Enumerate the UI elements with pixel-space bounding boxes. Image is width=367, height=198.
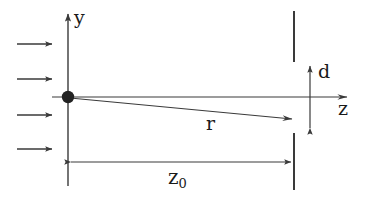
origin-scatterer-dot (62, 91, 74, 103)
ray-line (70, 98, 292, 119)
z-axis-label: z (338, 99, 348, 118)
z0-base-label: z (168, 165, 179, 189)
ray-label: r (206, 114, 215, 133)
physics-diagram: y z d r z0 (0, 0, 367, 198)
d-dimension-label: d (318, 62, 330, 81)
y-axis-label: y (74, 8, 85, 27)
z0-subscript-label: 0 (179, 176, 187, 191)
incoming-wave-arrows (17, 44, 52, 149)
z0-dimension-label: z0 (168, 167, 187, 187)
